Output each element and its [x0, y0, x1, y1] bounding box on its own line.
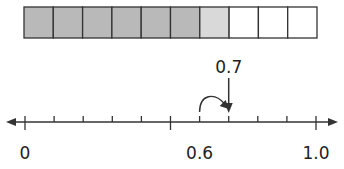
pointer-label: 0.7 [215, 57, 242, 77]
tick-labels: 00.61.0 [20, 143, 330, 163]
jump-arrow-icon [200, 96, 225, 112]
bar-cell [258, 7, 287, 38]
bar-cell [171, 7, 200, 38]
tick-label: 0.6 [186, 143, 213, 163]
tick-label: 0 [20, 143, 31, 163]
tick-label: 1.0 [302, 143, 329, 163]
bar-cell [288, 7, 317, 38]
right-arrow-icon [328, 118, 338, 126]
bar-cell [53, 7, 82, 38]
bar-cell [141, 7, 170, 38]
fraction-bar [24, 7, 317, 38]
bar-cell [229, 7, 258, 38]
bar-cell [83, 7, 112, 38]
bar-cell [112, 7, 141, 38]
ticks [25, 116, 316, 130]
number-line: 00.61.0 0.7 [6, 57, 338, 163]
bar-cell [200, 7, 229, 38]
left-arrow-icon [6, 118, 16, 126]
fraction-diagram: 00.61.0 0.7 [0, 0, 344, 169]
bar-cell [24, 7, 53, 38]
